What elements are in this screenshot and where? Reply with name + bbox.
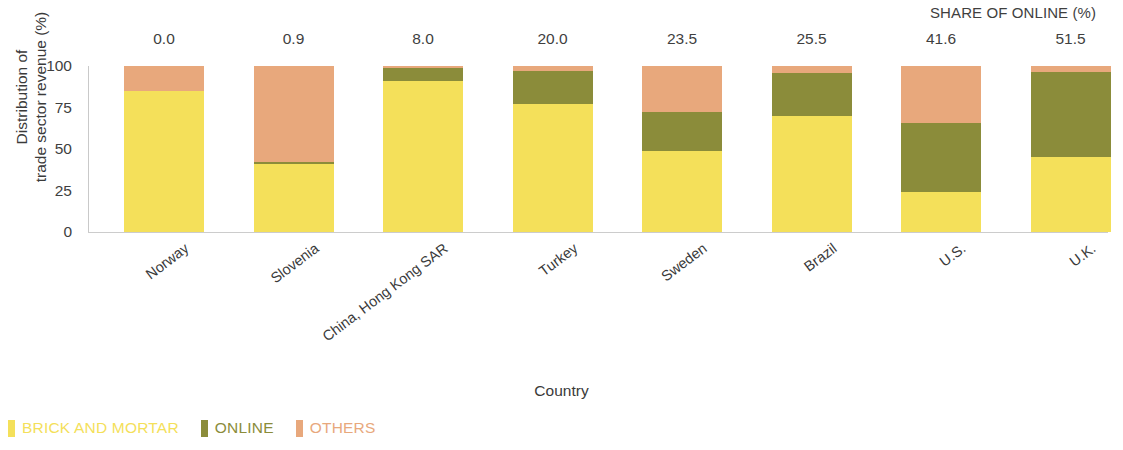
x-axis-title: Country <box>0 382 1123 400</box>
legend-label: OTHERS <box>310 419 376 437</box>
legend-item[interactable]: BRICK AND MORTAR <box>8 419 179 437</box>
x-axis-tick-label: Slovenia <box>267 240 321 286</box>
x-axis-tick-label: China, Hong Kong SAR <box>319 240 450 344</box>
chart-root: SHARE OF ONLINE (%) 0.00.98.020.023.525.… <box>0 0 1123 450</box>
legend-label: BRICK AND MORTAR <box>22 419 179 437</box>
x-axis-tick-label: Brazil <box>801 240 840 275</box>
legend-swatch-icon <box>201 420 208 437</box>
legend-item[interactable]: OTHERS <box>296 419 376 437</box>
legend-swatch-icon <box>296 420 303 437</box>
x-axis-tick-label: U.S. <box>936 240 968 270</box>
x-axis-tick-label: Turkey <box>536 240 581 279</box>
x-axis-tick-label: Sweden <box>658 240 709 284</box>
legend: BRICK AND MORTARONLINEOTHERS <box>8 419 376 437</box>
x-axis-tick-label: U.K. <box>1066 240 1098 270</box>
x-axis-tick-label: Norway <box>143 240 192 282</box>
legend-label: ONLINE <box>215 419 274 437</box>
legend-item[interactable]: ONLINE <box>201 419 274 437</box>
legend-swatch-icon <box>8 420 15 437</box>
